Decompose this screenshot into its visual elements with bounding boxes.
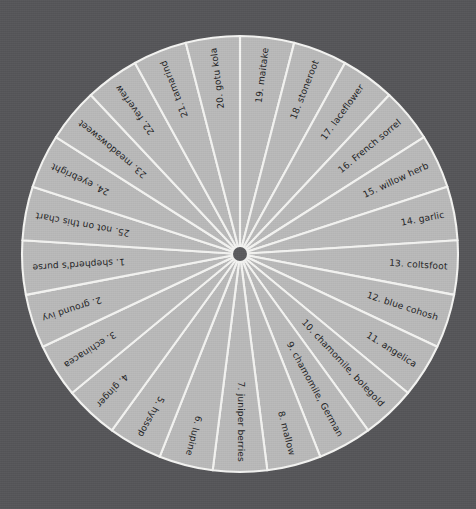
wheel-hub [233,247,247,261]
sector-label: 7. juniper berries [236,382,246,462]
herb-wheel-chart: 19. maitake18. stoneroot17. laceflower16… [0,0,476,509]
chart-canvas: 19. maitake18. stoneroot17. laceflower16… [0,0,476,509]
